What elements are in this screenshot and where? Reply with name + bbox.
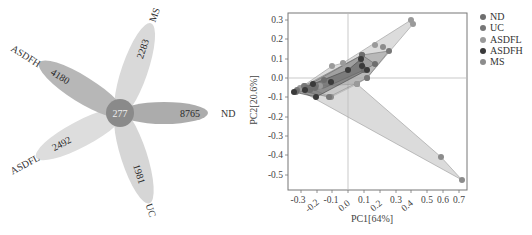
legend-dot-asdfl bbox=[480, 37, 486, 43]
y-axis-label: PC2[20.6%] bbox=[248, 75, 259, 125]
y-tick-label: -0.2 bbox=[268, 112, 283, 122]
pca-plot: 0.3 0.2 0.1 0.0 -0.1 -0.2 -0.3 -0.4 -0.5… bbox=[248, 11, 523, 224]
petal-value-nd: 8765 bbox=[180, 108, 200, 119]
legend-dot-ms bbox=[480, 59, 486, 65]
y-tick-label: 0.0 bbox=[271, 73, 283, 83]
y-tick-label: 0.3 bbox=[271, 15, 283, 25]
petal-label-uc: UC bbox=[144, 202, 159, 219]
flower-diagram: 277 8765 2283 4180 2492 1981 ND MS ASDFH… bbox=[0, 0, 532, 235]
x-tick-label: 0.0 bbox=[336, 198, 352, 213]
legend-dot-asdfh bbox=[480, 48, 486, 54]
y-tick-label: -0.1 bbox=[268, 92, 283, 102]
x-tick-label: -0.3 bbox=[290, 195, 305, 205]
y-tick-label: -0.3 bbox=[268, 131, 283, 141]
x-tick-label: -0.1 bbox=[323, 195, 338, 205]
petal-label-ms: MS bbox=[147, 6, 162, 23]
x-tick-label: 0.1 bbox=[358, 195, 370, 205]
x-tick-label: 0.3 bbox=[390, 195, 402, 205]
legend-label-asdfl: ASDFL bbox=[490, 34, 522, 45]
x-tick-label: -0.2 bbox=[303, 197, 321, 214]
legend-dot-uc bbox=[480, 25, 486, 31]
y-tick-label: 0.1 bbox=[271, 54, 283, 64]
petal-label-asdfh: ASDFH bbox=[9, 43, 43, 70]
petal-label-nd: ND bbox=[221, 108, 235, 119]
legend-label-ms: MS bbox=[490, 56, 504, 67]
legend: ND UC ASDFL ASDFH MS bbox=[480, 11, 523, 67]
legend-label-nd: ND bbox=[490, 11, 504, 22]
legend-label-uc: UC bbox=[490, 22, 504, 33]
x-tick-label: 0.5 bbox=[421, 195, 433, 205]
y-tick-label: -0.5 bbox=[268, 170, 283, 180]
core-value: 277 bbox=[113, 108, 128, 119]
y-tick-label: -0.4 bbox=[268, 150, 283, 160]
legend-dot-nd bbox=[480, 14, 486, 20]
y-tick-label: 0.2 bbox=[271, 34, 283, 44]
x-tick-label: 0.6 bbox=[437, 195, 449, 205]
legend-label-asdfh: ASDFH bbox=[490, 45, 523, 56]
petal-label-asdfl: ASDFL bbox=[8, 152, 41, 177]
x-tick-label: 0.2 bbox=[368, 198, 384, 213]
x-axis-label: PC1[64%] bbox=[351, 213, 393, 224]
hull-ms bbox=[299, 84, 462, 180]
x-tick-label: 0.7 bbox=[453, 195, 465, 205]
